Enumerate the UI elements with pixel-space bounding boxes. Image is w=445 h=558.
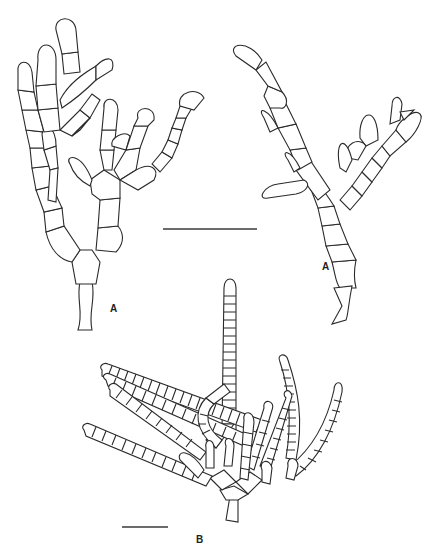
specimen-a-left	[18, 19, 204, 330]
panel-label-b: B	[196, 535, 203, 545]
algae-line-drawing	[0, 0, 445, 558]
specimen-a-right	[233, 45, 421, 324]
panel-label-a-right: A	[322, 262, 329, 272]
panel-label-a-left: A	[110, 304, 117, 314]
specimen-b	[83, 279, 343, 522]
